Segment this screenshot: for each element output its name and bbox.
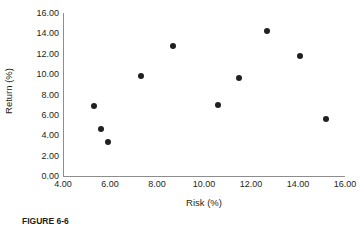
figure-container: 0.002.004.006.008.0010.0012.0014.0016.00…: [0, 0, 360, 225]
x-axis-title: Risk (%): [63, 198, 345, 208]
y-axis-tick-label: 16.00: [36, 9, 59, 18]
x-axis-tick-label: 12.00: [240, 180, 263, 189]
data-point: [236, 75, 242, 81]
x-axis-tick-label: 6.00: [101, 180, 119, 189]
plot-area: [63, 13, 345, 176]
data-point: [91, 103, 97, 109]
y-axis-title: Return (%): [4, 41, 14, 141]
data-point: [264, 28, 270, 34]
y-axis-tick-label: 10.00: [36, 70, 59, 79]
data-point: [215, 102, 221, 108]
x-axis-line: [63, 176, 345, 177]
y-axis-tick-label: 12.00: [36, 49, 59, 58]
y-axis-tick-label: 4.00: [41, 131, 59, 140]
data-point: [98, 126, 104, 132]
data-point: [323, 116, 329, 122]
data-point: [138, 73, 144, 79]
x-axis-tick-label: 8.00: [148, 180, 166, 189]
data-point: [105, 139, 111, 145]
y-axis-tick-label: 14.00: [36, 29, 59, 38]
x-axis-tick-label: 14.00: [287, 180, 310, 189]
figure-caption-label: FIGURE 6-6: [22, 216, 69, 225]
figure-caption: FIGURE 6-6: [22, 216, 352, 225]
data-point: [170, 43, 176, 49]
y-axis-tick-label: 2.00: [41, 151, 59, 160]
y-axis-tick-label: 6.00: [41, 110, 59, 119]
x-axis-tick-label: 16.00: [334, 180, 357, 189]
x-axis-tick-label: 10.00: [193, 180, 216, 189]
data-point: [297, 53, 303, 59]
x-axis-tick-label: 4.00: [54, 180, 72, 189]
y-axis-tick-label: 8.00: [41, 90, 59, 99]
